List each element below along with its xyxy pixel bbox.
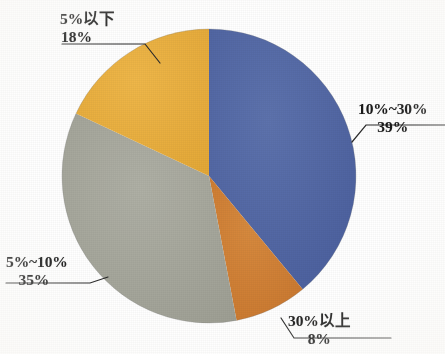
slice-label-over30-category: 30%以上 <box>288 312 351 330</box>
slice-label-10to30-category: 10%~30% <box>358 100 427 118</box>
slice-label-over30-value: 8% <box>288 330 351 348</box>
slice-label-10to30: 10%~30% 39% <box>358 100 427 137</box>
slice-label-10to30-value: 39% <box>358 118 427 136</box>
slice-label-5to10-value: 35% <box>6 271 68 289</box>
slice-label-below5-category: 5%以下 <box>60 10 115 28</box>
pie-chart: 5%以下 18% 10%~30% 39% 30%以上 8% 5%~10% 35% <box>0 0 445 354</box>
slice-label-over30: 30%以上 8% <box>288 312 351 349</box>
pie-chart-canvas <box>0 0 445 354</box>
slice-label-5to10-category: 5%~10% <box>6 253 68 271</box>
slice-label-below5: 5%以下 18% <box>60 10 115 47</box>
slice-label-below5-value: 18% <box>60 28 115 46</box>
slice-label-5to10: 5%~10% 35% <box>6 253 68 290</box>
